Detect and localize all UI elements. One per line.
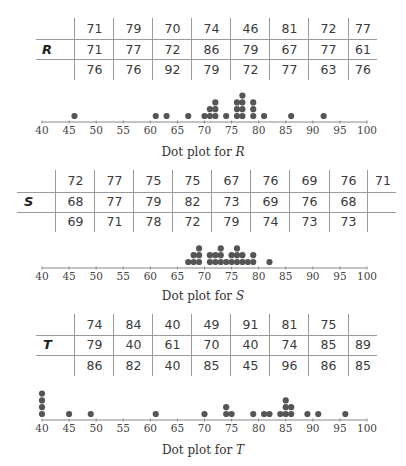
data-dot [196, 259, 202, 265]
caption-r: Dot plot for R [0, 145, 406, 159]
panel-s: S 72 77 75 75 67 76 69 76 71 68 77 79 82… [0, 160, 406, 310]
data-dot [288, 404, 294, 410]
data-dot [71, 113, 77, 119]
data-dot [212, 106, 218, 112]
data-dot [201, 411, 207, 417]
data-dot [239, 259, 245, 265]
dot-plot-r: 404550556065707580859095100 [0, 0, 406, 160]
x-tick-label: 70 [198, 124, 211, 136]
caption-t: Dot plot for T [0, 443, 406, 457]
data-dot [321, 113, 327, 119]
x-tick-label: 45 [62, 270, 75, 282]
data-dot [207, 252, 213, 258]
data-dot [261, 411, 267, 417]
caption-prefix: Dot plot for [162, 289, 236, 303]
data-dot [223, 113, 229, 119]
data-dot [266, 411, 272, 417]
x-tick-label: 65 [171, 124, 184, 136]
x-tick-label: 65 [171, 422, 184, 434]
data-dot [283, 404, 289, 410]
data-dot [66, 411, 72, 417]
data-dot [223, 404, 229, 410]
caption-variable: R [236, 145, 245, 159]
data-dot [201, 113, 207, 119]
data-dot [153, 411, 159, 417]
x-tick-label: 75 [225, 270, 238, 282]
x-tick-label: 95 [333, 124, 346, 136]
caption-prefix: Dot plot for [162, 443, 236, 457]
data-dot [223, 259, 229, 265]
x-tick-label: 40 [35, 124, 48, 136]
x-tick-label: 80 [252, 124, 265, 136]
data-dot [153, 113, 159, 119]
x-tick-label: 100 [357, 270, 377, 282]
x-tick-label: 85 [279, 124, 292, 136]
data-dot [250, 252, 256, 258]
x-tick-label: 100 [357, 422, 377, 434]
data-dot [234, 252, 240, 258]
data-dot [39, 397, 45, 403]
x-tick-label: 60 [144, 422, 157, 434]
x-tick-label: 50 [89, 124, 102, 136]
data-dot [228, 252, 234, 258]
x-tick-label: 55 [117, 270, 130, 282]
x-tick-label: 65 [171, 270, 184, 282]
data-dot [212, 99, 218, 105]
data-dot [315, 411, 321, 417]
data-dot [212, 252, 218, 258]
caption-prefix: Dot plot for [161, 145, 235, 159]
data-dot [207, 106, 213, 112]
x-tick-label: 90 [306, 124, 319, 136]
x-tick-label: 75 [225, 124, 238, 136]
data-dot [342, 411, 348, 417]
data-dot [250, 259, 256, 265]
x-tick-label: 55 [117, 422, 130, 434]
data-dot [196, 245, 202, 251]
data-dot [218, 252, 224, 258]
data-dot [288, 411, 294, 417]
data-dot [250, 411, 256, 417]
x-tick-label: 80 [252, 422, 265, 434]
data-dot [266, 259, 272, 265]
data-dot [39, 391, 45, 397]
data-dot [207, 113, 213, 119]
x-tick-label: 90 [306, 270, 319, 282]
data-dot [245, 259, 251, 265]
data-dot [88, 411, 94, 417]
x-tick-label: 100 [357, 124, 377, 136]
x-tick-label: 40 [35, 270, 48, 282]
data-dot [277, 411, 283, 417]
data-dot [239, 106, 245, 112]
x-tick-label: 50 [89, 270, 102, 282]
data-dot [191, 252, 197, 258]
data-dot [39, 411, 45, 417]
data-dot [288, 113, 294, 119]
dot-plot-s: 404550556065707580859095100 [0, 160, 406, 310]
caption-variable: T [236, 443, 244, 457]
data-dot [234, 259, 240, 265]
data-dot [261, 113, 267, 119]
data-dot [218, 245, 224, 251]
data-dot [185, 113, 191, 119]
caption-variable: S [236, 289, 244, 303]
data-dot [304, 411, 310, 417]
data-dot [163, 113, 169, 119]
x-tick-label: 85 [279, 270, 292, 282]
x-tick-label: 45 [62, 124, 75, 136]
data-dot [228, 259, 234, 265]
x-tick-label: 70 [198, 422, 211, 434]
data-dot [234, 245, 240, 251]
data-dot [239, 93, 245, 99]
data-dot [212, 259, 218, 265]
data-dot [185, 259, 191, 265]
x-tick-label: 60 [144, 124, 157, 136]
data-dot [223, 411, 229, 417]
data-dot [234, 106, 240, 112]
data-dot [250, 99, 256, 105]
data-dot [283, 411, 289, 417]
x-tick-label: 75 [225, 422, 238, 434]
data-dot [196, 252, 202, 258]
data-dot [250, 113, 256, 119]
x-tick-label: 55 [117, 124, 130, 136]
data-dot [191, 259, 197, 265]
